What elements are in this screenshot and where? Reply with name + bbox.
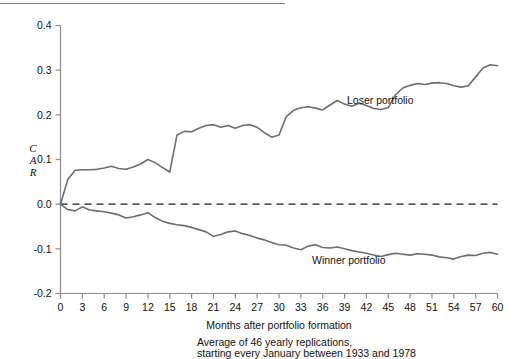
y-tick-label: 0.0 xyxy=(37,198,52,210)
tick-labels: -0.2-0.10.00.10.20.30.403691215182124273… xyxy=(33,19,503,312)
x-tick-label: 57 xyxy=(470,301,482,313)
x-tick-label: 45 xyxy=(382,301,394,313)
x-tick-label: 21 xyxy=(208,301,220,313)
x-tick-label: 15 xyxy=(164,301,176,313)
y-axis-letter-r: R xyxy=(29,166,37,178)
x-tick-label: 3 xyxy=(79,301,85,313)
chart-figure: -0.2-0.10.00.10.20.30.403691215182124273… xyxy=(0,0,521,359)
x-tick-label: 12 xyxy=(142,301,154,313)
series-line-winner xyxy=(61,204,498,259)
x-tick-label: 9 xyxy=(123,301,129,313)
x-tick-label: 33 xyxy=(295,301,307,313)
y-axis-letter-c: C xyxy=(29,142,37,154)
y-tick-label: 0.2 xyxy=(37,109,52,121)
series-label-winner: Winner portfolio xyxy=(312,254,386,266)
x-tick-label: 6 xyxy=(101,301,107,313)
x-tick-label: 27 xyxy=(251,301,263,313)
x-tick-label: 24 xyxy=(229,301,241,313)
x-tick-label: 51 xyxy=(426,301,438,313)
x-tick-label: 0 xyxy=(58,301,64,313)
x-axis-title: Months after portfolio formation xyxy=(206,319,351,331)
series-label-loser: Loser portfolio xyxy=(347,94,414,106)
x-tick-label: 60 xyxy=(492,301,504,313)
x-tick-label: 48 xyxy=(404,301,416,313)
axes xyxy=(61,26,498,294)
x-tick-label: 54 xyxy=(448,301,460,313)
y-tick-label: 0.3 xyxy=(37,64,52,76)
y-tick-label: -0.2 xyxy=(33,287,51,299)
car-line-chart: -0.2-0.10.00.10.20.30.403691215182124273… xyxy=(0,0,521,359)
x-tick-label: 18 xyxy=(186,301,198,313)
x-tick-label: 36 xyxy=(317,301,329,313)
y-tick-label: -0.1 xyxy=(33,243,51,255)
tick-marks xyxy=(56,26,498,299)
y-tick-label: 0.1 xyxy=(37,153,52,165)
x-tick-label: 39 xyxy=(339,301,351,313)
y-axis-letter-a: A xyxy=(29,154,37,166)
data-series xyxy=(61,65,498,259)
x-tick-label: 30 xyxy=(273,301,285,313)
caption-line-2: starting every January between 1933 and … xyxy=(197,347,416,359)
y-tick-label: 0.4 xyxy=(37,19,52,31)
x-tick-label: 42 xyxy=(361,301,373,313)
series-line-loser xyxy=(61,65,498,204)
